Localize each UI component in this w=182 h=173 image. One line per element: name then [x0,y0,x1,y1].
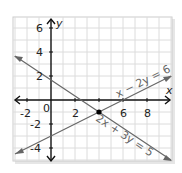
y-tick-label: 6 [36,22,43,35]
origin-label: 0 [43,102,50,115]
y-axis-label: y [55,17,63,30]
y-tick-label: -2 [30,118,41,131]
x-axis-label: x [165,84,173,97]
x-tick-label: 8 [144,107,151,120]
grid-background [13,17,172,161]
x-tick-label: 2 [72,107,79,120]
y-tick-label: -4 [30,142,41,155]
x-tick-label: 6 [120,107,127,120]
coordinate-plane: -2 0 2 6 8 6 4 2 -2 -4 y x x − 2y = 6 2x… [0,0,182,173]
y-tick-label: 2 [36,70,43,83]
y-tick-label: 4 [36,46,43,59]
